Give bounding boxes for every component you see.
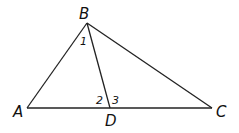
angle-label-1: 1 — [80, 35, 87, 48]
vertex-label-d: D — [105, 112, 117, 130]
segment-ab — [27, 23, 87, 108]
segment-bc — [87, 23, 212, 108]
vertex-label-c: C — [216, 103, 227, 121]
angle-label-2: 2 — [96, 94, 103, 107]
triangle-diagram: B A C D 1 2 3 — [0, 0, 239, 133]
vertex-label-a: A — [12, 103, 23, 121]
angle-label-3: 3 — [112, 94, 119, 107]
vertex-label-b: B — [79, 5, 89, 23]
